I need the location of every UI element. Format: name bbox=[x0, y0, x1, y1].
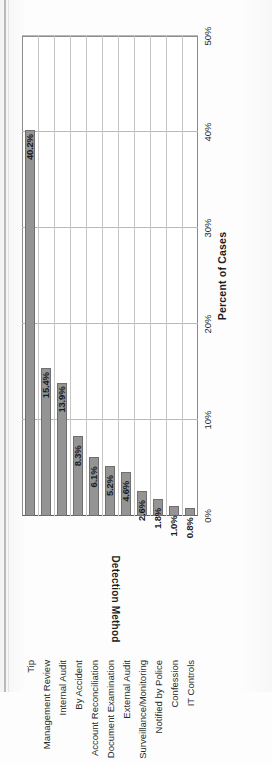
x-tick-label: 0% bbox=[202, 509, 213, 523]
bar-value-label: 1.8% bbox=[152, 508, 163, 529]
bar-value-label: 5.2% bbox=[104, 475, 115, 496]
bar-value-label: 13.9% bbox=[56, 387, 67, 413]
x-tick-label: 50% bbox=[202, 26, 213, 45]
bar-value-label: 6.1% bbox=[88, 467, 99, 488]
bar-value-label: 40.2% bbox=[24, 134, 35, 160]
x-tick-label: 20% bbox=[202, 314, 213, 333]
x-tick-label: 10% bbox=[202, 410, 213, 429]
category-label: By Accident bbox=[73, 660, 84, 763]
bar bbox=[185, 508, 195, 516]
x-axis-title: Percent of Cases bbox=[216, 36, 228, 516]
category-label: External Audit bbox=[121, 660, 132, 763]
category-label: Confession bbox=[169, 660, 180, 763]
gridline-x bbox=[22, 227, 198, 228]
category-label: Account Reconciliation bbox=[89, 660, 100, 763]
category-label: Internal Audit bbox=[57, 660, 68, 763]
bar-value-label: 2.6% bbox=[136, 500, 147, 521]
category-label: IT Controls bbox=[185, 660, 196, 763]
bar-value-label: 15.4% bbox=[40, 372, 51, 398]
bar-value-label: 8.3% bbox=[72, 445, 83, 466]
category-separator bbox=[102, 36, 103, 516]
category-separator bbox=[134, 36, 135, 516]
gridline-x bbox=[22, 35, 198, 36]
category-separator bbox=[166, 36, 167, 516]
bar-value-label: 4.6% bbox=[120, 481, 131, 502]
category-separator bbox=[38, 36, 39, 516]
category-separator bbox=[86, 36, 87, 516]
category-separator bbox=[150, 36, 151, 516]
category-separator bbox=[118, 36, 119, 516]
category-label: Tip bbox=[25, 660, 36, 763]
x-tick-label: 40% bbox=[202, 122, 213, 141]
category-label: Management Review bbox=[41, 660, 52, 763]
y-axis-title: Detection Method bbox=[110, 524, 121, 674]
bar bbox=[169, 506, 179, 516]
category-separator bbox=[182, 36, 183, 516]
category-separator bbox=[54, 36, 55, 516]
bar bbox=[25, 130, 35, 516]
category-separator bbox=[70, 36, 71, 516]
category-label: Surveillance/Monitoring bbox=[137, 660, 148, 763]
category-label: Document Examination bbox=[105, 660, 116, 763]
x-tick-label: 30% bbox=[202, 218, 213, 237]
bar-value-label: 1.0% bbox=[168, 516, 179, 537]
category-label: Notified by Police bbox=[153, 660, 164, 763]
gridline-x bbox=[22, 131, 198, 132]
bar-value-label: 0.8% bbox=[184, 517, 195, 538]
gridline-x bbox=[22, 323, 198, 324]
